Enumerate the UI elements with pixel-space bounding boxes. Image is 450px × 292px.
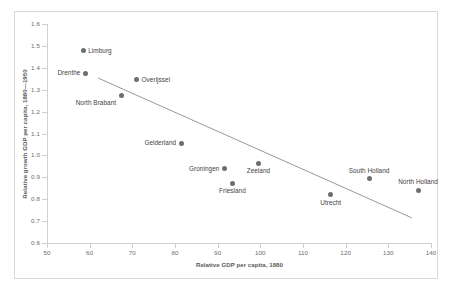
- y-tick-label: 1.0: [18, 151, 40, 158]
- x-tick-label: 110: [291, 249, 315, 256]
- y-tick-mark: [42, 155, 47, 156]
- scatter-point-label: Groningen: [189, 165, 219, 172]
- scatter-point: [230, 181, 235, 186]
- scatter-point: [83, 71, 88, 76]
- y-tick-label: 0.6: [18, 239, 40, 246]
- x-tick-label: 50: [35, 249, 59, 256]
- y-tick-mark: [42, 112, 47, 113]
- y-tick-label: 1.4: [18, 64, 40, 71]
- chart-figure: Relative growth GDP per capita, 1880—195…: [0, 0, 450, 292]
- scatter-point-label: Overijssel: [142, 76, 171, 83]
- scatter-point-label: Drenthe: [57, 69, 80, 76]
- figure-border: [14, 11, 438, 279]
- x-tick-label: 80: [163, 249, 187, 256]
- y-axis-line: [47, 24, 48, 244]
- x-tick-label: 120: [334, 249, 358, 256]
- scatter-point: [367, 176, 372, 181]
- x-tick-label: 60: [78, 249, 102, 256]
- x-tick-label: 90: [206, 249, 230, 256]
- y-tick-label: 1.6: [18, 20, 40, 27]
- y-tick-mark: [42, 68, 47, 69]
- y-tick-mark: [42, 199, 47, 200]
- y-tick-label: 1.1: [18, 130, 40, 137]
- x-tick-label: 100: [248, 249, 272, 256]
- x-axis-title: Relative GDP per capita, 1880: [47, 261, 432, 268]
- scatter-point: [416, 188, 421, 193]
- x-tick-mark: [388, 244, 389, 248]
- scatter-point-label: Friesland: [219, 187, 246, 194]
- scatter-point: [179, 141, 184, 146]
- scatter-point: [222, 166, 227, 171]
- scatter-point-label: Limburg: [88, 47, 111, 54]
- scatter-point-label: Gelderland: [144, 139, 176, 146]
- scatter-point-label: Utrecht: [320, 199, 341, 206]
- scatter-point-label: South Holland: [349, 167, 390, 174]
- x-tick-mark: [303, 244, 304, 248]
- x-tick-mark: [260, 244, 261, 248]
- x-tick-mark: [90, 244, 91, 248]
- scatter-point-label: Zeeland: [247, 167, 270, 174]
- x-axis-line: [47, 243, 432, 244]
- scatter-point-label: North Brabant: [76, 99, 116, 106]
- x-tick-mark: [346, 244, 347, 248]
- x-tick-mark: [132, 244, 133, 248]
- y-tick-label: 1.5: [18, 42, 40, 49]
- y-tick-label: 1.3: [18, 86, 40, 93]
- x-tick-mark: [47, 244, 48, 248]
- y-tick-mark: [42, 221, 47, 222]
- y-tick-label: 1.2: [18, 108, 40, 115]
- y-tick-mark: [42, 46, 47, 47]
- x-tick-label: 130: [376, 249, 400, 256]
- y-tick-mark: [42, 177, 47, 178]
- x-tick-mark: [218, 244, 219, 248]
- scatter-point: [256, 161, 261, 166]
- x-tick-mark: [431, 244, 432, 248]
- y-tick-label: 0.9: [18, 173, 40, 180]
- y-tick-mark: [42, 90, 47, 91]
- y-tick-mark: [42, 134, 47, 135]
- y-tick-label: 0.7: [18, 217, 40, 224]
- x-tick-label: 70: [120, 249, 144, 256]
- y-tick-mark: [42, 24, 47, 25]
- x-tick-label: 140: [419, 249, 443, 256]
- y-tick-label: 0.8: [18, 195, 40, 202]
- x-tick-mark: [175, 244, 176, 248]
- scatter-point-label: North Holland: [398, 178, 438, 185]
